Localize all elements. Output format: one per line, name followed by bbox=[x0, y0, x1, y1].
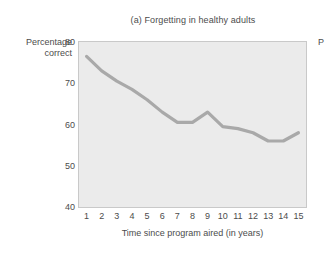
x-tick-label: 14 bbox=[278, 211, 288, 221]
x-tick-label: 1 bbox=[84, 211, 89, 221]
clipped-edge-text: P bbox=[318, 37, 325, 47]
x-tick-label: 2 bbox=[99, 211, 104, 221]
chart-title: (a) Forgetting in healthy adults bbox=[78, 15, 308, 25]
y-tick-label: 70 bbox=[53, 78, 75, 88]
x-axis-label: Time since program aired (in years) bbox=[60, 228, 325, 238]
x-tick-label: 7 bbox=[175, 211, 180, 221]
y-tick-label: 60 bbox=[53, 120, 75, 130]
series-polyline bbox=[87, 56, 299, 141]
data-line-series bbox=[79, 42, 306, 207]
x-tick-label: 10 bbox=[218, 211, 228, 221]
y-tick-label: 50 bbox=[53, 161, 75, 171]
x-tick-label: 12 bbox=[248, 211, 258, 221]
x-tick-label: 11 bbox=[233, 211, 242, 221]
x-tick-label: 4 bbox=[129, 211, 134, 221]
x-tick-label: 5 bbox=[145, 211, 150, 221]
x-axis-ticks: 123456789101112131415 bbox=[78, 211, 307, 225]
plot-area bbox=[78, 41, 307, 208]
x-tick-label: 9 bbox=[205, 211, 210, 221]
chart-figure: (a) Forgetting in healthy adults Percent… bbox=[0, 0, 325, 256]
x-tick-label: 3 bbox=[114, 211, 119, 221]
y-axis-ticks: 8070605040 bbox=[50, 41, 75, 208]
x-tick-label: 8 bbox=[190, 211, 195, 221]
y-tick-label: 40 bbox=[53, 202, 75, 212]
x-tick-label: 13 bbox=[263, 211, 273, 221]
y-tick-label: 80 bbox=[53, 37, 75, 47]
x-tick-label: 6 bbox=[160, 211, 165, 221]
x-tick-label: 15 bbox=[293, 211, 303, 221]
